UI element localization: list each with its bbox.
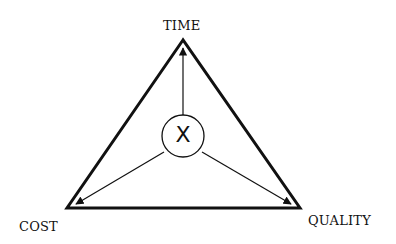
center-label: X	[163, 122, 203, 147]
label-quality: QUALITY	[308, 213, 371, 228]
label-cost: COST	[19, 219, 58, 234]
iron-triangle-diagram: X TIME COST QUALITY	[0, 0, 396, 244]
label-time: TIME	[163, 18, 200, 33]
